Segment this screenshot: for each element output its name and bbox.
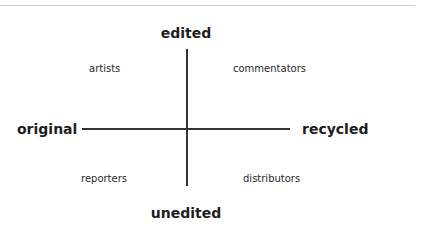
quadrant-label-distributors: distributors: [243, 174, 300, 184]
top-divider: [0, 5, 415, 6]
axis-label-unedited: unedited: [151, 206, 221, 220]
axis-label-original: original: [17, 122, 77, 136]
horizontal-axis-line: [82, 128, 290, 130]
vertical-axis-line: [186, 49, 188, 186]
quadrant-label-artists: artists: [89, 64, 120, 74]
axis-label-edited: edited: [161, 26, 212, 40]
quadrant-label-reporters: reporters: [81, 174, 127, 184]
axis-label-recycled: recycled: [302, 122, 368, 136]
quadrant-diagram: edited unedited original recycled artist…: [0, 0, 421, 227]
quadrant-label-commentators: commentators: [233, 64, 306, 74]
